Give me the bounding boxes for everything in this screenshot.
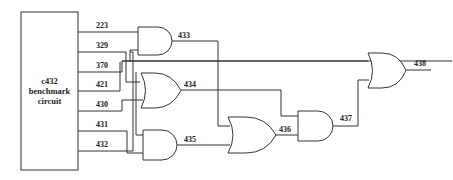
gate-label-437: 437	[340, 114, 352, 123]
block-label-line3: circuit	[38, 96, 62, 106]
input-label-223: 223	[96, 21, 108, 30]
or-gate-434: 434	[141, 73, 299, 116]
block-label-line1: c432	[41, 76, 58, 86]
gate-label-434: 434	[184, 80, 196, 89]
gate-label-433: 433	[178, 31, 190, 40]
or-gate-438: 438	[368, 53, 431, 88]
input-labels: 223 329 370 421 430 431 432	[96, 21, 108, 149]
input-label-370: 370	[96, 61, 108, 70]
input-label-421: 421	[96, 80, 108, 89]
logic-circuit-diagram: c432 benchmark circuit 433 434	[0, 0, 453, 180]
input-label-432: 432	[96, 140, 108, 149]
input-label-430: 430	[96, 100, 108, 109]
benchmark-block: c432 benchmark circuit	[21, 12, 78, 170]
and-gate-437: 437	[298, 80, 369, 141]
gate-label-438: 438	[414, 59, 426, 68]
gate-label-436: 436	[279, 125, 291, 134]
block-label-line2: benchmark	[29, 86, 71, 96]
gate-label-435: 435	[184, 135, 196, 144]
input-label-431: 431	[96, 120, 108, 129]
or-gate-436: 436	[228, 117, 299, 153]
and-gate-435: 435	[143, 130, 230, 160]
input-label-329: 329	[96, 41, 108, 50]
